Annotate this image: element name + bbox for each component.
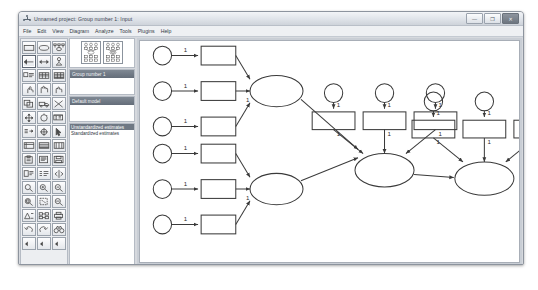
select-data-file-icon[interactable] bbox=[22, 139, 36, 152]
draw-observed-variable-icon[interactable] bbox=[22, 41, 36, 54]
multiple-group-analysis-icon[interactable] bbox=[37, 209, 51, 222]
zoom-in-icon[interactable] bbox=[37, 181, 51, 194]
close-icon: ✕ bbox=[508, 16, 512, 21]
groups-panel-body bbox=[70, 78, 134, 80]
groups-panel: Group number 1 bbox=[69, 69, 135, 95]
svg-text:1: 1 bbox=[487, 138, 491, 145]
menu-edit[interactable]: Edit bbox=[37, 28, 46, 34]
estimates-panel: Unstandardized estimates Standardized es… bbox=[69, 123, 135, 265]
svg-text:1: 1 bbox=[184, 82, 188, 89]
minimize-button[interactable]: — bbox=[466, 13, 483, 24]
sem-path-diagram: 11111111111111111111 bbox=[140, 41, 519, 262]
svg-text:1: 1 bbox=[436, 138, 440, 145]
draw-latent-with-indicators-icon[interactable] bbox=[52, 41, 66, 54]
svg-text:1: 1 bbox=[184, 144, 188, 151]
window-title: Unnamed project: Group number 1: Input bbox=[34, 16, 132, 22]
calculate-estimates-icon[interactable] bbox=[52, 139, 66, 152]
list-variables-in-dataset-icon[interactable] bbox=[52, 69, 66, 82]
reposition-path-diagram-icon[interactable] bbox=[37, 125, 51, 138]
svg-text:1: 1 bbox=[439, 130, 443, 137]
menu-view[interactable]: View bbox=[52, 28, 63, 34]
specification-search-icon[interactable] bbox=[52, 223, 66, 236]
reflect-indicators-icon[interactable] bbox=[52, 111, 66, 124]
move-objects-icon[interactable] bbox=[37, 97, 51, 110]
draw-covariance-icon[interactable] bbox=[37, 55, 51, 68]
print-icon[interactable] bbox=[52, 209, 66, 222]
duplicate-objects-icon[interactable] bbox=[22, 97, 36, 110]
view-text-output-icon[interactable] bbox=[37, 153, 51, 166]
drag-properties-icon[interactable] bbox=[37, 167, 51, 180]
svg-text:1: 1 bbox=[184, 215, 188, 222]
move-parameter-values-icon[interactable] bbox=[22, 125, 36, 138]
svg-text:1: 1 bbox=[184, 117, 188, 124]
estimates-item-standardized[interactable]: Standardized estimates bbox=[70, 130, 134, 136]
bayesian-estimation-icon[interactable] bbox=[22, 209, 36, 222]
amos-path-diagram-icon bbox=[23, 15, 31, 23]
menu-tools[interactable]: Tools bbox=[120, 28, 132, 34]
model-view-thumbnails bbox=[70, 39, 134, 66]
zoom-select-icon[interactable] bbox=[22, 181, 36, 194]
models-panel: Default model bbox=[69, 96, 135, 122]
menu-analyze[interactable]: Analyze bbox=[95, 28, 113, 34]
svg-text:1: 1 bbox=[337, 130, 341, 137]
loupe-icon[interactable] bbox=[52, 195, 66, 208]
list-variables-in-model-icon[interactable] bbox=[37, 69, 51, 82]
title-bar: Unnamed project: Group number 1: Input —… bbox=[19, 12, 523, 26]
svg-text:1: 1 bbox=[388, 101, 392, 108]
svg-text:1: 1 bbox=[436, 109, 440, 116]
menu-help[interactable]: Help bbox=[161, 28, 172, 34]
estimates-list: Unstandardized estimates Standardized es… bbox=[70, 124, 134, 136]
groups-panel-header[interactable]: Group number 1 bbox=[70, 70, 134, 78]
add-unique-variable-icon[interactable] bbox=[52, 55, 66, 68]
select-one-object-icon[interactable] bbox=[22, 83, 36, 96]
close-button[interactable]: ✕ bbox=[502, 13, 519, 24]
svg-text:1: 1 bbox=[487, 109, 491, 116]
maximize-icon: ❐ bbox=[490, 16, 494, 21]
svg-text:1: 1 bbox=[388, 130, 392, 137]
output-diagram-thumbnail[interactable] bbox=[103, 41, 123, 64]
menu-diagram[interactable]: Diagram bbox=[69, 28, 89, 34]
clipboard-copy-icon[interactable] bbox=[22, 153, 36, 166]
draw-path-icon[interactable] bbox=[22, 55, 36, 68]
analysis-properties-icon[interactable] bbox=[37, 139, 51, 152]
svg-text:1: 1 bbox=[337, 101, 341, 108]
scroll-left-3-icon[interactable] bbox=[52, 237, 66, 250]
select-all-objects-icon[interactable] bbox=[37, 83, 51, 96]
undo-icon[interactable] bbox=[22, 223, 36, 236]
preserve-symmetries-icon[interactable] bbox=[52, 167, 66, 180]
svg-text:1: 1 bbox=[184, 180, 188, 187]
canvas-area: 11111111111111111111 bbox=[137, 38, 522, 265]
zoom-page-icon[interactable] bbox=[22, 195, 36, 208]
input-diagram-thumbnail[interactable] bbox=[81, 41, 101, 64]
draw-unobserved-variable-icon[interactable] bbox=[37, 41, 51, 54]
svg-text:1: 1 bbox=[184, 46, 188, 53]
amos-graphics-window: Unnamed project: Group number 1: Input —… bbox=[18, 11, 524, 265]
workspace: Group number 1 Default model Unstandardi… bbox=[19, 37, 523, 265]
save-diagram-icon[interactable] bbox=[52, 153, 66, 166]
redo-icon[interactable] bbox=[37, 223, 51, 236]
scroll-left-2-icon[interactable] bbox=[37, 237, 51, 250]
models-panel-header[interactable]: Default model bbox=[70, 97, 134, 105]
erase-objects-icon[interactable] bbox=[52, 97, 66, 110]
menu-plugins[interactable]: Plugins bbox=[138, 28, 155, 34]
deselect-all-objects-icon[interactable] bbox=[52, 83, 66, 96]
path-diagram-canvas[interactable]: 11111111111111111111 bbox=[139, 40, 520, 263]
fit-to-page-icon[interactable] bbox=[37, 195, 51, 208]
maximize-button[interactable]: ❐ bbox=[484, 13, 501, 24]
zoom-out-icon[interactable] bbox=[52, 181, 66, 194]
tool-palette bbox=[20, 38, 68, 265]
change-shape-icon[interactable] bbox=[22, 111, 36, 124]
object-properties-icon[interactable] bbox=[22, 167, 36, 180]
touch-up-variable-icon[interactable] bbox=[52, 125, 66, 138]
figure-caption-icon[interactable] bbox=[22, 69, 36, 82]
window-controls: — ❐ ✕ bbox=[466, 13, 521, 24]
model-views-panel bbox=[69, 38, 135, 68]
scroll-left-icon[interactable] bbox=[22, 237, 36, 250]
models-panel-body bbox=[70, 105, 134, 107]
side-panels: Group number 1 Default model Unstandardi… bbox=[69, 38, 135, 265]
tool-palette-grid bbox=[22, 41, 66, 250]
menu-file[interactable]: File bbox=[23, 28, 31, 34]
svg-text:1: 1 bbox=[246, 194, 250, 201]
rotate-indicators-icon[interactable] bbox=[37, 111, 51, 124]
minimize-icon: — bbox=[472, 16, 477, 21]
